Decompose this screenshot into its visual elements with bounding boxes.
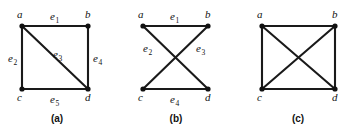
vertex-label-b: b xyxy=(85,8,91,20)
panel-caption: (a) xyxy=(51,113,63,124)
vertex-label-a: a xyxy=(257,8,263,20)
vertex-b xyxy=(85,23,90,28)
graph-figure: e1e2e3e4e5abcd(a)e1e2e3e4abcd(b)abcd(c) xyxy=(0,0,357,139)
vertex-label-d: d xyxy=(85,91,91,103)
edge-label-letter: e xyxy=(170,10,175,22)
edge-label-e1: e1 xyxy=(170,10,179,25)
vertex-label-d: d xyxy=(205,91,211,103)
edge-label-e2: e2 xyxy=(143,42,152,57)
edge-label-subscript: 1 xyxy=(175,16,179,25)
vertex-label-a: a xyxy=(17,8,23,20)
edge-label-subscript: 3 xyxy=(58,54,62,63)
edge-label-e2: e2 xyxy=(8,52,17,67)
vertex-a xyxy=(259,23,264,28)
edge-label-subscript: 5 xyxy=(55,99,59,108)
graph-panel-b: e1e2e3e4abcd(b) xyxy=(138,8,211,124)
vertex-a xyxy=(19,23,24,28)
graph-figure-canvas: e1e2e3e4e5abcd(a)e1e2e3e4abcd(b)abcd(c) xyxy=(0,0,357,139)
vertex-a xyxy=(140,23,145,28)
edge-label-subscript: 2 xyxy=(13,58,17,67)
edge-label-subscript: 2 xyxy=(148,48,152,57)
vertex-label-c: c xyxy=(138,91,143,103)
edge-label-subscript: 4 xyxy=(98,58,102,67)
edge-label-e5: e5 xyxy=(50,93,59,108)
edge-label-e1: e1 xyxy=(50,10,59,25)
vertex-b xyxy=(332,23,337,28)
vertex-label-b: b xyxy=(205,8,211,20)
edge-label-letter: e xyxy=(93,52,98,64)
edge-label-e4: e4 xyxy=(170,93,179,108)
edge-label-subscript: 3 xyxy=(201,48,205,57)
edge-label-subscript: 4 xyxy=(175,99,179,108)
edge-label-letter: e xyxy=(50,10,55,22)
graph-panel-a: e1e2e3e4e5abcd(a) xyxy=(8,8,102,124)
panel-caption: (b) xyxy=(170,113,183,124)
vertex-label-c: c xyxy=(17,91,22,103)
edge-label-letter: e xyxy=(8,52,13,64)
edge-label-e4: e4 xyxy=(93,52,102,67)
vertex-label-a: a xyxy=(138,8,144,20)
vertex-b xyxy=(205,23,210,28)
vertex-label-b: b xyxy=(332,8,338,20)
edge-label-letter: e xyxy=(50,93,55,105)
vertex-label-d: d xyxy=(332,91,338,103)
panel-caption: (c) xyxy=(292,113,304,124)
edge-label-e3: e3 xyxy=(53,48,62,63)
graph-panel-c: abcd(c) xyxy=(257,8,338,124)
edge-label-letter: e xyxy=(53,48,58,60)
edge-label-letter: e xyxy=(143,42,148,54)
edge-label-letter: e xyxy=(170,93,175,105)
vertex-label-c: c xyxy=(257,91,262,103)
edge-label-e3: e3 xyxy=(196,42,205,57)
edge-label-subscript: 1 xyxy=(55,16,59,25)
edge-label-letter: e xyxy=(196,42,201,54)
